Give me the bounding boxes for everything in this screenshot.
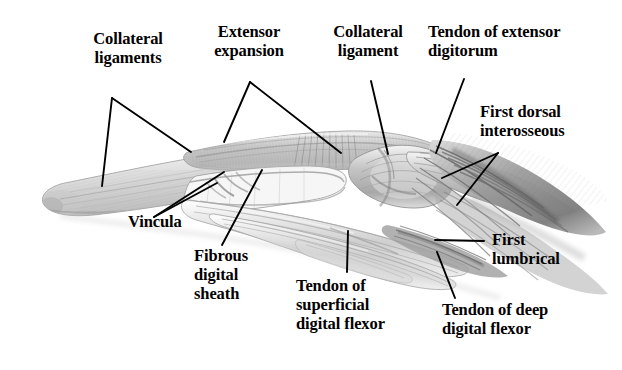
label-collateral-ligament: Collateral ligament [313, 22, 423, 60]
label-tendon-of-deep-digital-flexor: Tendon of deep digital flexor [442, 300, 598, 338]
label-vincula: Vincula [128, 212, 220, 231]
leader-fibrous-digital-sheath [222, 170, 262, 245]
leader-tendon-deep-digital-flexor [437, 252, 455, 298]
label-tendon-of-extensor-digitorum: Tendon of extensor digitorum [428, 22, 612, 60]
leader-first-dorsal-interosseous-b [457, 153, 498, 205]
label-tendon-of-superficial-digital-flexor: Tendon of superficial digital flexor [296, 276, 424, 333]
leader-tendon-extensor-digitorum [436, 79, 464, 153]
leader-collateral-ligaments-b [112, 98, 191, 152]
label-extensor-expansion: Extensor expansion [191, 22, 307, 60]
anatomy-figure: Collateral ligaments Extensor expansion … [0, 0, 622, 370]
label-collateral-ligaments: Collateral ligaments [72, 29, 184, 67]
leader-collateral-ligaments-a [102, 98, 112, 186]
leader-extensor-expansion-b [250, 82, 341, 153]
label-fibrous-digital-sheath: Fibrous digital sheath [194, 246, 286, 303]
leader-collateral-ligament [371, 81, 388, 154]
leader-tendon-superficial-digital-flexor [347, 231, 348, 272]
leader-extensor-expansion-a [224, 82, 250, 142]
label-first-dorsal-interosseous: First dorsal interosseous [480, 102, 620, 140]
leader-vincula-a [154, 172, 224, 217]
label-first-lumbrical: First lumbrical [492, 230, 604, 268]
leader-first-dorsal-interosseous-a [442, 153, 498, 178]
leader-first-lumbrical [435, 240, 484, 241]
